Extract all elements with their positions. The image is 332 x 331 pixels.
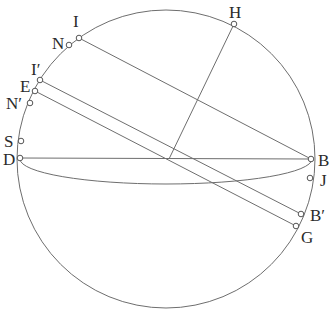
point-d-label: D [3, 150, 15, 169]
point-n2-label: N′ [6, 94, 22, 113]
point-s-label: S [4, 132, 13, 151]
segment-i2-b2 [40, 80, 301, 214]
point-j-marker [307, 175, 313, 181]
point-labels: INHI′EN′SDBJB′G [3, 3, 329, 247]
point-n2-marker [27, 100, 33, 106]
point-s-marker [18, 138, 24, 144]
geometry-diagram: INHI′EN′SDBJB′G [0, 0, 332, 331]
point-g-label: G [301, 228, 313, 247]
point-i-marker [76, 35, 82, 41]
point-b-marker [308, 156, 314, 162]
point-h-marker [231, 21, 237, 27]
segment-h-o [169, 24, 234, 159]
point-b2-label: B′ [310, 206, 325, 225]
point-b2-marker [298, 211, 304, 217]
point-n-marker [66, 42, 72, 48]
point-g-marker [293, 223, 299, 229]
point-i-label: I [73, 12, 79, 31]
segment-i-b [79, 38, 311, 159]
point-n-label: N [52, 34, 64, 53]
point-j-label: J [320, 171, 327, 190]
point-d-marker [17, 155, 23, 161]
line-segments [20, 24, 311, 226]
point-e-marker [32, 88, 38, 94]
point-h-label: H [229, 3, 241, 22]
point-i2-label: I′ [31, 60, 40, 79]
equator-ellipse-arc [20, 159, 312, 184]
point-b-label: B [318, 151, 329, 170]
